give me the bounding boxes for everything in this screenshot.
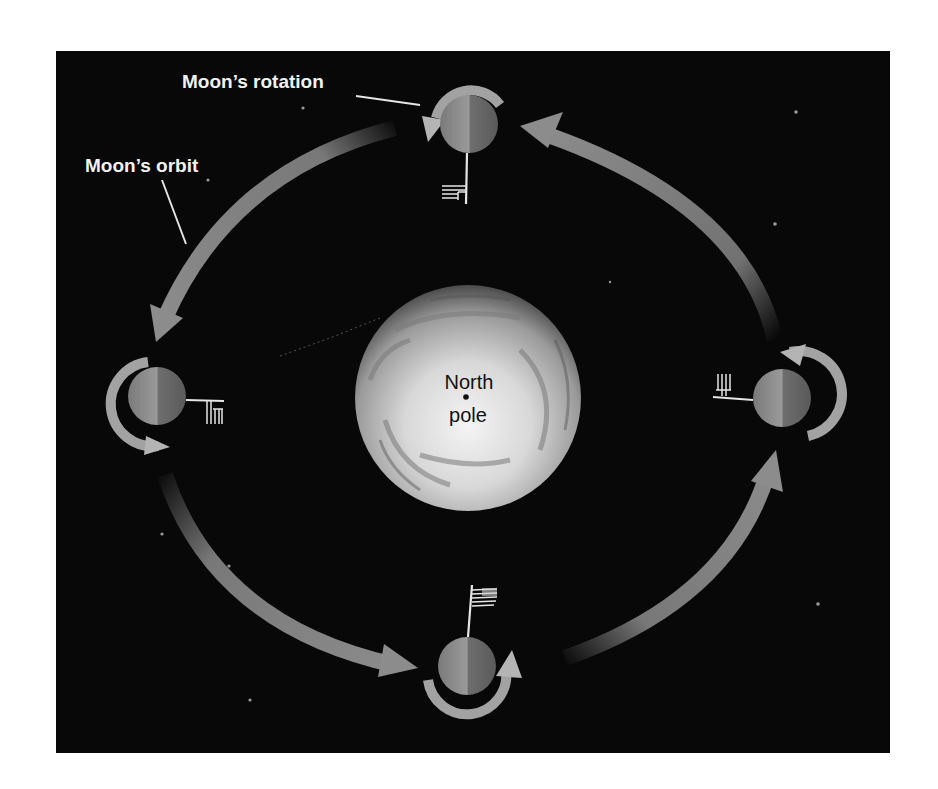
north-pole-dot xyxy=(463,394,469,400)
moon-orbit-diagram: North pole xyxy=(0,0,938,789)
flag-pole-left xyxy=(186,400,224,401)
flag-pole-top xyxy=(466,153,467,204)
moons-rotation-label: Moon’s rotation xyxy=(182,71,324,92)
earth: North pole xyxy=(355,285,581,511)
north-label: North xyxy=(445,371,494,393)
pole-label: pole xyxy=(449,404,487,426)
moons-orbit-label: Moon’s orbit xyxy=(85,155,199,176)
